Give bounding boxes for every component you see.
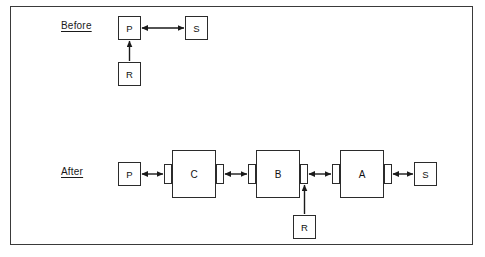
node-after-b-left-tab (248, 164, 256, 184)
node-after-r[interactable]: R (293, 215, 316, 239)
row-label-after: After (61, 166, 83, 177)
node-before-p[interactable]: P (118, 16, 141, 40)
connector-layer (0, 0, 485, 257)
node-after-c-right-tab (216, 164, 224, 184)
node-after-a-left-tab (332, 164, 340, 184)
node-after-c[interactable]: C (172, 150, 216, 198)
node-after-s[interactable]: S (414, 162, 437, 186)
row-label-before: Before (61, 20, 92, 31)
node-after-a-right-tab (384, 164, 392, 184)
node-after-b-right-tab (300, 164, 308, 184)
node-after-c-left-tab (164, 164, 172, 184)
node-before-s[interactable]: S (185, 16, 208, 40)
node-after-p[interactable]: P (118, 162, 141, 186)
node-before-r[interactable]: R (118, 62, 141, 86)
diagram-figure: Before After P S R P C B A S R (0, 0, 485, 257)
node-after-a[interactable]: A (340, 150, 384, 198)
node-after-b[interactable]: B (256, 150, 300, 198)
